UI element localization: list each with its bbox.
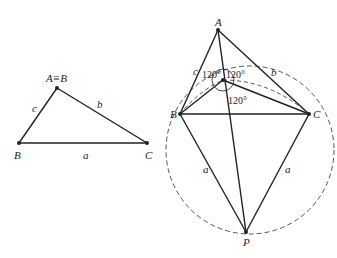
label-side-b-right: b <box>271 66 277 78</box>
label-side-a-left: a <box>83 149 89 161</box>
label-c-left: C <box>145 149 153 161</box>
geometry-diagram: A≡B B C c b a A B C P c b a a 120° 120° … <box>0 0 337 258</box>
label-side-c-left: c <box>32 102 37 114</box>
angle-label-3: 120° <box>228 95 247 106</box>
label-side-a-right-right: a <box>285 163 291 175</box>
label-side-b-left: b <box>97 98 103 110</box>
label-c-right: C <box>313 108 321 120</box>
label-b-left: B <box>14 149 21 161</box>
right-figure <box>180 30 309 232</box>
label-a-eq-b: A≡B <box>45 72 67 84</box>
label-side-c-right: c <box>193 65 198 77</box>
angle-label-1: 120° <box>202 69 221 80</box>
left-triangle <box>19 88 147 143</box>
angle-label-2: 120° <box>226 69 245 80</box>
label-p: P <box>242 236 250 248</box>
label-a-right: A <box>214 16 222 28</box>
label-side-a-left-right: a <box>203 163 209 175</box>
label-b-right: B <box>170 108 177 120</box>
